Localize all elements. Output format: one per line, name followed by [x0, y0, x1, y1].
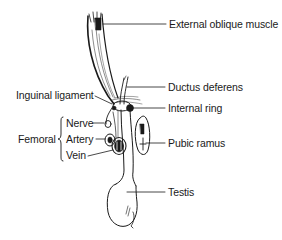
testis-drawing [107, 184, 137, 228]
label-testis: Testis [168, 186, 194, 198]
ductus-deferens-drawing [120, 76, 128, 104]
label-pubic-ramus: Pubic ramus [168, 137, 225, 149]
internal-ring-drawing [112, 96, 142, 111]
femoral-brace [58, 117, 63, 161]
anatomy-diagram [0, 0, 282, 240]
label-internal-ring: Internal ring [168, 102, 222, 114]
label-femoral-vein: Vein [66, 149, 86, 161]
label-femoral: Femoral [18, 133, 56, 145]
label-femoral-nerve: Nerve [66, 117, 94, 129]
label-femoral-artery: Artery [66, 133, 93, 145]
leader-vein [88, 150, 113, 156]
femoral-vessels-drawing [105, 108, 126, 155]
label-inguinal-ligament: Inguinal ligament [16, 89, 94, 101]
pubic-ramus-drawing [135, 116, 150, 154]
label-external-oblique-muscle: External oblique muscle [169, 18, 278, 30]
label-ductus-deferens: Ductus deferens [168, 81, 243, 93]
